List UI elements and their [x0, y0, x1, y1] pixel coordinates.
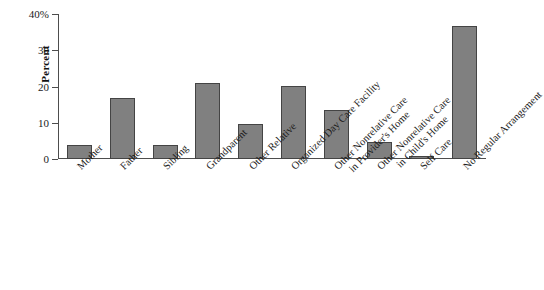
y-axis-line	[58, 14, 59, 159]
y-tick-label: 10	[38, 117, 49, 129]
y-tick-label: 40%	[29, 8, 49, 20]
bar	[195, 83, 220, 159]
y-tick-label: 0	[44, 153, 50, 165]
y-tick-mark	[52, 14, 58, 15]
y-tick-mark	[52, 159, 58, 160]
y-tick-mark	[52, 50, 58, 51]
bar	[452, 26, 477, 159]
y-tick-label: 20	[38, 81, 49, 93]
y-tick-mark	[52, 123, 58, 124]
y-tick-label: 30	[38, 44, 49, 56]
y-tick-mark	[52, 87, 58, 88]
